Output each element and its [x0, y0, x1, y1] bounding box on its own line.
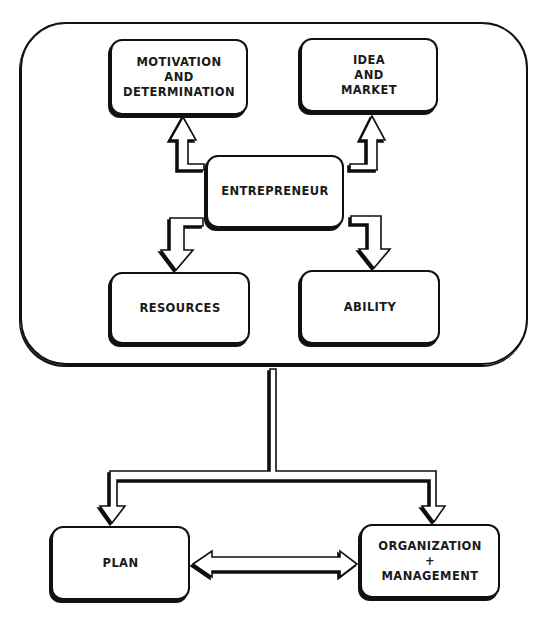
node-resources-label: RESOURCES — [139, 301, 220, 316]
node-organization-management: ORGANIZATION + MANAGEMENT — [360, 524, 500, 598]
node-idea-market: IDEA AND MARKET — [300, 38, 438, 112]
node-resources: RESOURCES — [110, 272, 250, 344]
double-arrow-icon — [193, 551, 357, 577]
arrow-to-idea-icon — [350, 116, 385, 170]
branch-connector-icon — [100, 369, 445, 523]
node-entrepreneur: ENTREPRENEUR — [206, 155, 344, 228]
node-entrepreneur-label: ENTREPRENEUR — [221, 184, 329, 199]
node-motivation: MOTIVATION AND DETERMINATION — [110, 39, 248, 115]
arrow-to-motivation-icon — [170, 117, 204, 170]
node-ability-label: ABILITY — [344, 300, 397, 315]
node-organization-label: ORGANIZATION + MANAGEMENT — [378, 539, 482, 584]
arrow-to-ability-icon — [351, 216, 390, 268]
node-plan-label: PLAN — [103, 556, 139, 571]
node-motivation-label: MOTIVATION AND DETERMINATION — [123, 55, 235, 100]
arrow-to-resources-icon — [161, 218, 203, 270]
node-idea-label: IDEA AND MARKET — [341, 53, 397, 98]
node-plan: PLAN — [51, 526, 190, 600]
node-ability: ABILITY — [300, 270, 440, 344]
